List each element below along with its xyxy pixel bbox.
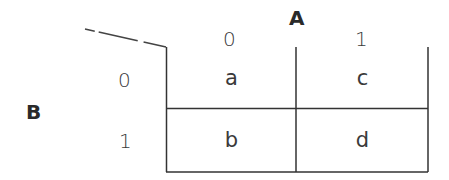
row-variable-label: B (26, 100, 41, 124)
row-label-0: 0 (118, 68, 131, 92)
cell-d: d (297, 109, 428, 171)
row-label-1: 1 (119, 129, 132, 153)
cell-b: b (167, 109, 296, 171)
diagonal-line (85, 29, 166, 47)
cell-a: a (167, 48, 296, 108)
cell-c: c (297, 48, 428, 108)
column-variable-label: A (289, 6, 304, 30)
